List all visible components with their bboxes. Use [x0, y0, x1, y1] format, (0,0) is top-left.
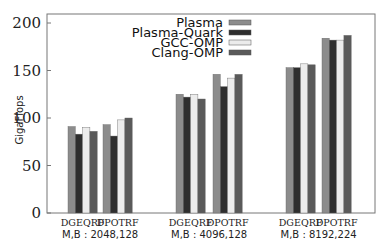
legend-swatch — [229, 40, 251, 45]
bar-clang-omp — [344, 35, 351, 213]
x-axis: DGEQRFDPOTRFM,B : 2048,128DGEQRFDPOTRFM,… — [61, 217, 358, 240]
legend: PlasmaPlasma-QuarkGCC-OMPClang-OMP — [132, 15, 251, 60]
bar-plasma — [286, 68, 293, 213]
x-group-label: M,B : 8192,224 — [281, 229, 357, 240]
legend-label: Clang-OMP — [152, 45, 224, 60]
x-group-label: M,B : 2048,128 — [62, 229, 138, 240]
bar-plasma-quark — [293, 68, 300, 213]
legend-swatch — [229, 30, 251, 35]
bar-plasma-quark — [75, 134, 82, 213]
bar-gcc-omp — [301, 64, 308, 213]
bar-plasma — [103, 125, 110, 213]
bar-gcc-omp — [191, 94, 198, 213]
bar-gcc-omp — [228, 78, 235, 213]
bar-chart: 050100150200 DGEQRFDPOTRFM,B : 2048,128D… — [0, 0, 387, 246]
bars — [68, 35, 351, 213]
bar-plasma — [213, 74, 220, 213]
x-category-label: DPOTRF — [316, 217, 358, 228]
bar-plasma-quark — [110, 136, 117, 213]
legend-swatch — [229, 50, 251, 55]
bar-plasma — [68, 127, 75, 213]
bar-clang-omp — [308, 65, 315, 213]
y-axis-label: GigaFlops — [14, 95, 25, 144]
bar-gcc-omp — [118, 120, 125, 213]
y-tick-label: 50 — [22, 157, 41, 175]
x-category-label: DPOTRF — [207, 217, 249, 228]
bar-plasma-quark — [183, 97, 190, 213]
y-tick-label: 0 — [31, 204, 41, 222]
y-tick-label: 200 — [12, 14, 41, 32]
bar-gcc-omp — [83, 128, 90, 214]
bar-plasma — [176, 94, 183, 213]
bar-plasma — [322, 38, 329, 213]
bar-clang-omp — [125, 118, 132, 213]
bar-clang-omp — [235, 74, 242, 213]
x-group-label: M,B : 4096,128 — [171, 229, 247, 240]
bar-plasma-quark — [329, 40, 336, 213]
bar-gcc-omp — [337, 40, 344, 213]
bar-clang-omp — [198, 99, 205, 213]
x-category-label: DPOTRF — [97, 217, 139, 228]
legend-swatch — [229, 20, 251, 25]
bar-clang-omp — [90, 131, 97, 213]
y-tick-label: 150 — [12, 62, 41, 80]
bar-plasma-quark — [220, 87, 227, 213]
